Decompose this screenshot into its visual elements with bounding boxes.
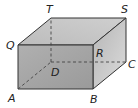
vertex-label-q: Q (6, 39, 15, 52)
vertex-label-r: R (96, 47, 104, 60)
vertex-label-a: A (7, 92, 16, 105)
vertex-label-t: T (46, 3, 54, 16)
vertex-label-d: D (51, 66, 59, 79)
vertex-label-b: B (90, 93, 98, 106)
vertex-label-c: C (128, 58, 136, 71)
prism-diagram: T S Q R C D A B (0, 0, 138, 108)
vertex-label-s: S (121, 3, 128, 16)
